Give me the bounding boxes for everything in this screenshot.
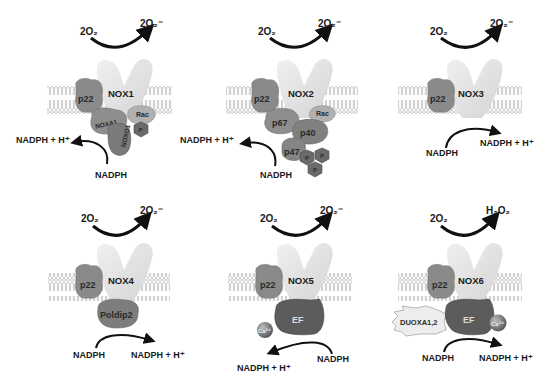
- phosphate-label: P: [139, 127, 143, 133]
- nadph-label: NADPH: [260, 170, 292, 180]
- panel-nox2: 2O₂ 2O₂⁻ p22 NOX2 p67 Rac p40 p47 P P P …: [180, 18, 358, 180]
- phosphate-label: P: [320, 153, 324, 159]
- duoxa-label: DUOXA1,2: [400, 318, 438, 327]
- product-label: H₂O₂: [486, 205, 510, 216]
- ef-label: EF: [292, 315, 304, 325]
- product-label: 2O₂⁻: [320, 205, 343, 216]
- superoxide-arrow: [93, 218, 146, 235]
- enzyme-label: NOX3: [458, 88, 484, 99]
- enzyme-label: NOX5: [288, 275, 315, 286]
- panel-nox5: 2O₂ 2O₂⁻ p22 NOX5 EF Ca²⁺ NADPH + H⁺ NAD…: [228, 205, 352, 373]
- calcium-label: Ca²⁺: [258, 328, 271, 334]
- rac-label: Rac: [136, 111, 149, 118]
- rac-label: Rac: [316, 110, 329, 117]
- product-label: 2O₂⁻: [140, 205, 163, 216]
- nadph-h-label: NADPH + H⁺: [180, 135, 234, 145]
- nadph-h-label: NADPH + H⁺: [480, 138, 534, 148]
- enzyme-label: NOX6: [458, 275, 484, 286]
- nadph-h-label: NADPH + H⁺: [131, 350, 185, 360]
- p47-label: p47: [284, 147, 300, 157]
- product-label: 2O₂⁻: [140, 18, 163, 29]
- nadph-label: NADPH: [426, 148, 458, 158]
- ef-label: EF: [463, 315, 475, 325]
- enzyme-label: NOX1: [108, 88, 135, 99]
- nadph-arrow: [245, 142, 275, 166]
- p22-label: p22: [432, 280, 448, 290]
- p22-label: p22: [260, 280, 276, 290]
- nadph-h-label: NADPH + H⁺: [479, 353, 533, 363]
- product-label: 2O₂⁻: [318, 18, 341, 29]
- p22-label: p22: [80, 280, 96, 290]
- nadph-label: NADPH: [422, 353, 454, 363]
- superoxide-arrow: [272, 218, 327, 235]
- nox-diagram: 2O₂ 2O₂⁻ p22 NOX1 NOXA1 NOXO1 Rac P NADP…: [0, 0, 550, 386]
- p22-label: p22: [430, 94, 446, 104]
- nadph-arrow: [444, 339, 497, 352]
- enzyme-label: NOX2: [288, 88, 314, 99]
- calcium-label: Ca²⁺: [491, 321, 504, 327]
- substrate-label: 2O₂: [430, 213, 448, 224]
- poldip2-label: Poldip2: [100, 310, 133, 320]
- panel-nox6: 2O₂ H₂O₂ p22 NOX6 DUOXA1,2 EF Ca²⁺ NADPH…: [392, 205, 533, 363]
- substrate-label: 2O₂: [260, 213, 278, 224]
- substrate-label: 2O₂: [80, 26, 98, 37]
- superoxide-arrow: [270, 30, 327, 47]
- substrate-label: 2O₂: [81, 213, 99, 224]
- nadph-label: NADPH: [317, 354, 349, 364]
- p22-label: p22: [254, 94, 270, 104]
- panel-nox3: 2O₂ 2O₂⁻ p22 NOX3 NADPH NADPH + H⁺: [398, 18, 534, 158]
- nadph-h-label: NADPH + H⁺: [237, 363, 291, 373]
- substrate-label: 2O₂: [258, 26, 276, 37]
- nadph-label: NADPH: [95, 170, 127, 180]
- product-label: 2O₂⁻: [490, 18, 513, 29]
- panel-nox4: 2O₂ 2O₂⁻ p22 NOX4 Poldip2 NADPH NADPH + …: [48, 205, 185, 360]
- enzyme-label: NOX4: [108, 275, 135, 286]
- p40-label: p40: [300, 128, 316, 138]
- peroxide-arrow: [441, 218, 494, 235]
- phosphate-label: P: [313, 167, 317, 173]
- nadph-h-label: NADPH + H⁺: [16, 135, 70, 145]
- superoxide-arrow: [441, 30, 497, 47]
- panel-nox1: 2O₂ 2O₂⁻ p22 NOX1 NOXA1 NOXO1 Rac P NADP…: [16, 14, 172, 180]
- superoxide-arrow: [91, 30, 148, 47]
- nadph-arrow: [76, 141, 107, 164]
- nadph-label: NADPH: [73, 350, 105, 360]
- nadph-arrow: [96, 335, 150, 348]
- nadph-arrow: [272, 342, 332, 354]
- p67-label: p67: [272, 118, 288, 128]
- p22-label: p22: [78, 94, 94, 104]
- phosphate-label: P: [305, 155, 309, 161]
- substrate-label: 2O₂: [430, 26, 448, 37]
